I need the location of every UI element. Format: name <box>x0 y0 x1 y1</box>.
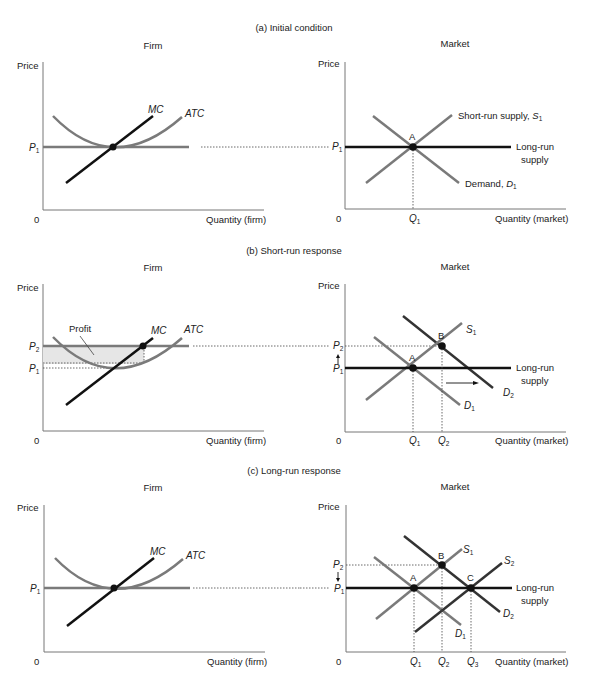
origin-label: 0 <box>34 214 39 225</box>
profit-label: Profit <box>69 323 92 334</box>
panel-c: (c) Long-run response Firm Market Price … <box>17 465 568 668</box>
q2-label: Q2 <box>438 656 450 668</box>
panel-a: (a) Initial condition Firm Market Price … <box>17 22 568 225</box>
origin-label: 0 <box>336 656 341 667</box>
panel-a-title: (a) Initial condition <box>255 22 332 33</box>
d2-label: D2 <box>503 387 514 399</box>
demand-d1 <box>374 337 460 405</box>
point-b-label: B <box>438 550 444 561</box>
p2-label: P2 <box>29 341 40 353</box>
y-axis-label: Price <box>318 58 340 69</box>
origin-label: 0 <box>34 435 39 446</box>
lrs-label-1: Long-run <box>516 582 554 593</box>
p1-label: P1 <box>334 583 345 595</box>
s1-label: S1 <box>463 544 474 556</box>
y-axis-label: Price <box>17 60 39 71</box>
point-a <box>409 143 417 151</box>
x-axis-label: Quantity (market) <box>495 435 568 446</box>
demand-d1 <box>373 116 459 183</box>
point-b <box>438 342 446 350</box>
point-a <box>410 584 418 592</box>
demand-d1 <box>374 557 461 625</box>
point-b-label: B <box>438 330 444 341</box>
point-a-label: A <box>409 131 416 142</box>
y-axis-label: Price <box>318 501 340 512</box>
x-axis-label: Quantity (market) <box>495 213 568 224</box>
atc-label: ATC <box>185 550 206 561</box>
x-axis-label: Quantity (firm) <box>206 214 266 225</box>
q1-label: Q1 <box>409 213 421 225</box>
lrs-label-1: Long-run <box>516 362 554 373</box>
p2-label: P2 <box>333 559 344 571</box>
point-c <box>467 584 475 592</box>
market-chart-c: Price 0 Quantity (market) P2 P1 A B C S1 <box>300 501 568 668</box>
p1-label: P1 <box>332 141 343 153</box>
origin-label: 0 <box>336 435 341 446</box>
lrs-label-1: Long-run <box>516 141 554 152</box>
p1-label: P1 <box>29 142 40 154</box>
x-axis-label: Quantity (firm) <box>206 435 266 446</box>
y-axis-label: Price <box>17 502 39 513</box>
p2-label: P2 <box>333 340 344 352</box>
equilibrium-dot <box>110 144 117 151</box>
q1-label: Q1 <box>409 435 421 447</box>
s2-label: S2 <box>504 555 515 567</box>
equilibrium-dot <box>111 585 118 592</box>
x-axis-label: Quantity (market) <box>495 656 568 667</box>
firm-chart-b: Price 0 Quantity (firm) P2 P1 Profit MC … <box>17 282 300 446</box>
d2-label: D2 <box>503 608 514 620</box>
origin-label: 0 <box>336 213 341 224</box>
demand-d2 <box>403 316 493 388</box>
d1-label: D1 <box>464 400 475 412</box>
figure-canvas: (a) Initial condition Firm Market Price … <box>0 0 589 686</box>
p1-label: P1 <box>30 583 41 595</box>
firm-title: Firm <box>144 482 163 493</box>
market-chart-b: Price 0 Quantity (market) P2 P1 A B S1 L… <box>300 280 568 447</box>
market-title: Market <box>440 481 469 492</box>
point-c-label: C <box>467 572 474 583</box>
p1-label: P1 <box>29 363 40 375</box>
p1-label: P1 <box>333 363 344 375</box>
supply-s1 <box>366 115 452 183</box>
market-title: Market <box>440 261 469 272</box>
d1-label: D1 <box>455 628 466 640</box>
x-axis-label: Quantity (firm) <box>207 656 267 667</box>
mc-curve <box>67 558 154 626</box>
mc-label: MC <box>150 546 166 557</box>
firm-chart-a: Price 0 Quantity (firm) P1 MC ATC <box>17 60 300 225</box>
supply-s1 <box>376 549 462 619</box>
demand-d2 <box>404 536 500 612</box>
q2-label: Q2 <box>438 435 450 447</box>
demand-label: Demand, D1 <box>465 178 517 190</box>
panel-b: (b) Short-run response Firm Market Price… <box>17 245 568 447</box>
firm-title: Firm <box>144 262 163 273</box>
market-chart-a: Price 0 Quantity (market) P1 A Short-run… <box>300 58 568 225</box>
y-axis-label: Price <box>318 280 340 291</box>
firm-title: Firm <box>144 40 163 51</box>
lrs-label-2: supply <box>521 595 549 606</box>
firm-output-dot <box>140 343 147 350</box>
point-a <box>409 364 417 372</box>
srs-label: Short-run supply, S1 <box>458 110 543 122</box>
mc-label: MC <box>151 325 167 336</box>
point-a-label: A <box>409 352 416 363</box>
point-b <box>438 561 446 569</box>
lrs-label-2: supply <box>521 375 549 386</box>
market-title: Market <box>440 38 469 49</box>
point-a-label: A <box>410 572 417 583</box>
panel-b-title: (b) Short-run response <box>246 245 342 256</box>
mc-label: MC <box>148 104 164 115</box>
atc-label: ATC <box>184 108 205 119</box>
origin-label: 0 <box>34 656 39 667</box>
s1-label: S1 <box>466 324 477 336</box>
y-axis-label: Price <box>17 282 39 293</box>
panel-c-title: (c) Long-run response <box>247 465 340 476</box>
atc-label: ATC <box>183 324 204 335</box>
lrs-label-2: supply <box>521 154 549 165</box>
firm-chart-c: Price 0 Quantity (firm) P1 MC ATC <box>17 502 300 667</box>
mc-curve <box>66 116 153 183</box>
q3-label: Q3 <box>467 656 479 668</box>
q1-label: Q1 <box>410 656 422 668</box>
